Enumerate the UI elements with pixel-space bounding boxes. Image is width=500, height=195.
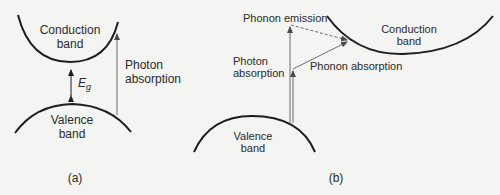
band-gap-label: Eg [78, 76, 91, 92]
phonon-emission-arrow [291, 25, 347, 40]
photon-absorption-label-b: Photon [233, 55, 268, 67]
band-diagram-figure: Conduction band Valence band Eg Photon a… [0, 0, 500, 195]
conduction-band-label-a-2: band [57, 37, 84, 51]
phonon-absorption-label: Phonon absorption [310, 60, 402, 72]
valence-band-label-a: Valence [51, 113, 94, 127]
valence-band-label-b-2: band [241, 142, 265, 154]
photon-absorption-label-a-2: absorption [125, 72, 181, 86]
valence-band-label-b: Valence [234, 130, 273, 142]
panel-b: Phonon emission Conduction band Photon a… [194, 12, 493, 185]
panel-a-caption: (a) [68, 171, 83, 185]
conduction-band-label-a: Conduction [40, 23, 101, 37]
panel-b-caption: (b) [329, 171, 344, 185]
photon-absorption-label-b-2: absorption [233, 67, 284, 79]
conduction-band-label-b-2: band [397, 35, 421, 47]
panel-a: Conduction band Valence band Eg Photon a… [15, 15, 181, 185]
photon-absorption-label-a: Photon [125, 58, 163, 72]
phonon-emission-label: Phonon emission [243, 12, 327, 24]
conduction-band-label-b: Conduction [381, 23, 437, 35]
valence-band-label-a-2: band [59, 127, 86, 141]
